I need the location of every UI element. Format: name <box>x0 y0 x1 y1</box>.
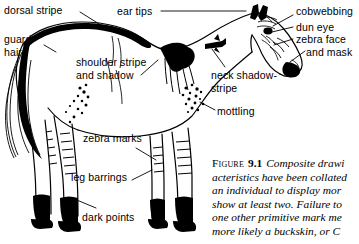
figure-illustration: dorsal stripe guard hairs shoulder strip… <box>0 0 359 244</box>
label-mottling: mottling <box>217 105 255 118</box>
figure-caption: Figure9.1Composite drawi acteristics hav… <box>212 157 359 239</box>
label-neck-shadow-stripe: neck shadow- stripe <box>211 69 281 94</box>
label-zebra-face-line2: and mask <box>296 46 352 59</box>
label-zebra-face-and-mask: zebra face and mask <box>296 33 359 58</box>
label-zebra-face-line1: zebra face <box>296 33 346 45</box>
caption-line-4: show at least two. Failure to <box>212 198 359 212</box>
neck-shadow-stripe-marking <box>205 34 226 53</box>
label-ear-tips: ear tips <box>117 5 152 18</box>
caption-line-5: one other primitive mark me <box>212 211 359 225</box>
caption-line-3: an individual to display mor <box>212 184 359 198</box>
caption-line-1: Figure9.1Composite drawi <box>212 157 359 171</box>
label-dorsal-stripe: dorsal stripe <box>4 4 63 17</box>
caption-line-1-text: Composite drawi <box>266 157 344 169</box>
caption-line-2: acteristics have been collated <box>212 171 359 185</box>
label-neck-shadow-line1: neck shadow- <box>211 69 277 81</box>
label-zebra-marks: zebra marks <box>83 132 142 145</box>
label-guard-hairs: guard hairs <box>4 33 50 58</box>
label-shoulder-stripe-and-shadow: shoulder stripe and shadow <box>76 56 166 81</box>
label-guard-hairs-line1: guard <box>4 33 31 45</box>
label-guard-hairs-line2: hairs <box>4 46 27 58</box>
label-shoulder-stripe-line1: shoulder stripe <box>76 56 146 68</box>
dun-eye-marking <box>263 28 272 35</box>
caption-figure-word: Figure <box>212 157 244 169</box>
zebra-marks-marking <box>65 84 90 124</box>
caption-figure-number: 9.1 <box>244 157 266 169</box>
tail-guard-hairs <box>5 44 42 159</box>
label-dark-points: dark points <box>82 211 134 224</box>
label-dun-eye: dun eye <box>296 21 334 34</box>
mottling-marking <box>182 84 205 113</box>
label-neck-shadow-line2: stripe <box>211 82 237 94</box>
caption-line-6: more likely a buckskin, or C <box>212 225 359 239</box>
label-cobwebbing: cobwebbing <box>296 5 353 18</box>
label-leg-barrings: leg barrings <box>71 171 127 184</box>
label-shoulder-stripe-line2: and shadow <box>76 69 134 81</box>
